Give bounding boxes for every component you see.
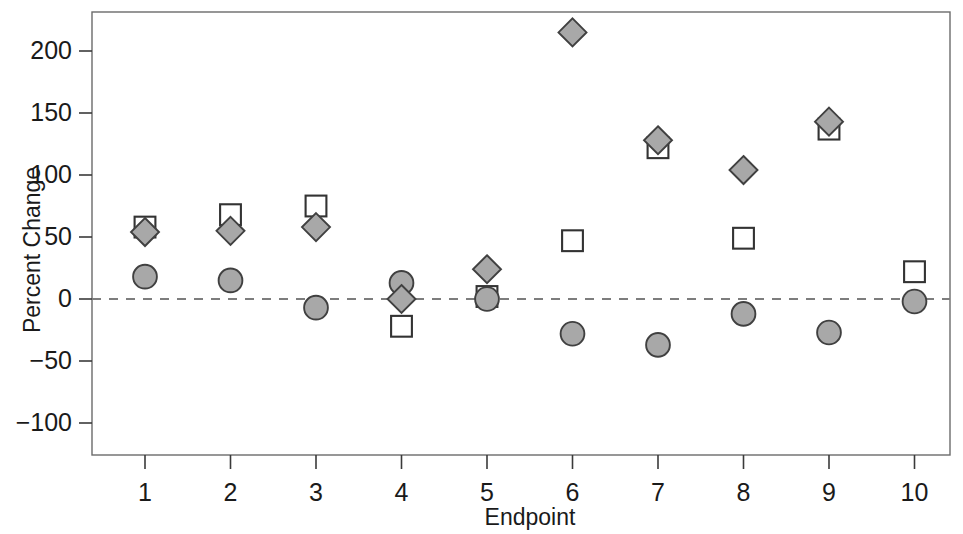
x-tick-label: 9 [822, 478, 836, 506]
datapoint-circle-series-10 [903, 290, 927, 314]
datapoint-circle-series-5 [475, 287, 499, 311]
datapoint-circle-series-1 [133, 265, 157, 289]
datapoint-square-series-4 [391, 316, 412, 337]
scatter-plot: 200150100500−50−100 12345678910 Percent … [0, 0, 963, 534]
chart-figure: 200150100500−50−100 12345678910 Percent … [0, 0, 963, 534]
y-tick-label: 0 [58, 284, 72, 312]
y-tick-label: 200 [30, 36, 72, 64]
datapoint-square-series-10 [904, 261, 925, 282]
x-tick-label: 6 [566, 478, 580, 506]
datapoint-circle-series-6 [561, 322, 585, 346]
datapoint-circle-series-9 [817, 321, 841, 345]
x-tick-label: 2 [224, 478, 238, 506]
y-axis-title: Percent Change [19, 167, 45, 333]
datapoint-square-series-6 [562, 230, 583, 251]
y-tick-label: −50 [30, 346, 72, 374]
datapoint-square-series-8 [733, 228, 754, 249]
x-axis-title: Endpoint [485, 504, 576, 530]
x-tick-label: 8 [737, 478, 751, 506]
datapoint-circle-series-8 [732, 302, 756, 326]
y-tick-label: 150 [30, 98, 72, 126]
datapoint-circle-series-3 [304, 296, 328, 320]
x-tick-label: 4 [395, 478, 409, 506]
x-tick-label: 5 [480, 478, 494, 506]
x-tick-label: 7 [651, 478, 665, 506]
datapoint-circle-series-2 [219, 269, 243, 293]
x-tick-label: 1 [138, 478, 152, 506]
x-tick-label: 10 [901, 478, 929, 506]
y-tick-label: −100 [16, 408, 72, 436]
datapoint-circle-series-7 [646, 333, 670, 357]
y-tick-label: 50 [44, 222, 72, 250]
x-tick-label: 3 [309, 478, 323, 506]
